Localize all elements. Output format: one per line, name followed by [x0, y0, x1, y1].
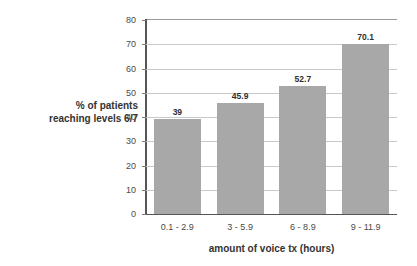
x-axis-category-label: 9 - 11.9: [351, 222, 381, 232]
y-axis-tick: 60: [142, 69, 146, 70]
bar: 70.1: [342, 44, 389, 214]
y-axis-tick-label: 70: [126, 39, 136, 49]
plot-top-border: [146, 19, 397, 20]
y-axis-tick: 40: [142, 117, 146, 118]
bar-value-label: 70.1: [357, 32, 374, 42]
x-axis-category-label: 6 - 8.9: [290, 222, 316, 232]
y-axis-tick-label: 30: [126, 136, 136, 146]
y-axis-tick: 0: [142, 214, 146, 215]
y-axis-tick: 50: [142, 93, 146, 94]
y-axis-tick: 20: [142, 166, 146, 167]
y-axis-tick: 30: [142, 141, 146, 142]
y-axis-tick-label: 50: [126, 88, 136, 98]
y-axis-tick: 80: [142, 20, 146, 21]
bar-value-label: 45.9: [232, 91, 249, 101]
plot-area: 01020304050607080 3945.952.770.1: [146, 20, 397, 214]
y-axis-tick-label: 10: [126, 185, 136, 195]
x-axis-title: amount of voice tx (hours): [146, 243, 397, 254]
y-axis-title-line-2: reaching levels 6/7: [10, 112, 138, 125]
y-axis-tick-label: 0: [131, 209, 136, 219]
x-axis-category-label: 0.1 - 2.9: [161, 222, 194, 232]
y-axis-tick-label: 20: [126, 161, 136, 171]
y-axis-title-line-1: % of patients: [10, 99, 138, 112]
bar-value-label: 52.7: [295, 74, 312, 84]
bar: 52.7: [279, 86, 326, 214]
y-axis-title: % of patients reaching levels 6/7: [10, 99, 138, 125]
y-axis-tick-label: 60: [126, 64, 136, 74]
bar-chart-figure: % of patients reaching levels 6/7 010203…: [0, 0, 417, 266]
y-axis-tick-label: 40: [126, 112, 136, 122]
y-axis-tick: 10: [142, 190, 146, 191]
bar: 39: [154, 119, 201, 214]
y-axis-tick: 70: [142, 44, 146, 45]
bar: 45.9: [217, 103, 264, 214]
bar-value-label: 39: [173, 107, 182, 117]
y-axis-tick-label: 80: [126, 15, 136, 25]
x-axis-category-label: 3 - 5.9: [227, 222, 253, 232]
